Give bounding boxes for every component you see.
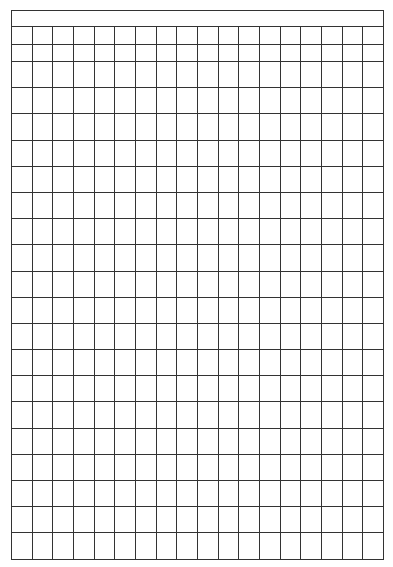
grid-cell (239, 62, 260, 88)
grid-cell (94, 428, 115, 454)
grid-cell (32, 88, 53, 114)
grid-cell (197, 245, 218, 271)
grid-cell (73, 481, 94, 507)
grid-cell (197, 27, 218, 45)
grid-row (12, 88, 384, 114)
grid-cell (156, 271, 177, 297)
grid-cell (280, 402, 301, 428)
grid-cell (73, 271, 94, 297)
grid-cell (94, 271, 115, 297)
grid-row (12, 114, 384, 140)
grid-cell (197, 219, 218, 245)
grid-cell (321, 166, 342, 192)
grid-cell (32, 140, 53, 166)
grid-cell (73, 376, 94, 402)
grid-cell (135, 245, 156, 271)
grid-cell (218, 428, 239, 454)
grid-cell (156, 376, 177, 402)
grid-cell (177, 376, 198, 402)
grid-cell (197, 533, 218, 559)
grid-cell (73, 62, 94, 88)
grid-cell (321, 114, 342, 140)
grid-cell (218, 27, 239, 45)
grid-cell (156, 533, 177, 559)
grid-cell (73, 507, 94, 533)
grid-cell (115, 114, 136, 140)
grid-cell (301, 323, 322, 349)
grid-cell (12, 454, 33, 480)
grid-cell (177, 350, 198, 376)
grid-cell (53, 219, 74, 245)
grid-cell (115, 428, 136, 454)
grid-cell (115, 271, 136, 297)
grid-cell (177, 481, 198, 507)
grid-cell (73, 245, 94, 271)
grid-body (12, 11, 384, 560)
grid-cell (259, 27, 280, 45)
grid-row (12, 245, 384, 271)
grid-cell (342, 323, 363, 349)
grid-cell (135, 140, 156, 166)
grid-cell (218, 323, 239, 349)
grid-cell (218, 481, 239, 507)
grid-cell (301, 62, 322, 88)
grid-cell (32, 44, 53, 62)
grid-cell (177, 44, 198, 62)
grid-cell (321, 88, 342, 114)
grid-cell (94, 166, 115, 192)
grid-cell (259, 140, 280, 166)
grid-cell (197, 350, 218, 376)
grid-cell (177, 297, 198, 323)
grid-cell (239, 271, 260, 297)
grid-cell (94, 219, 115, 245)
grid-cell (301, 376, 322, 402)
grid-cell (12, 533, 33, 559)
grid-cell (94, 44, 115, 62)
grid-cell (301, 166, 322, 192)
grid-cell (321, 323, 342, 349)
grid-cell (12, 245, 33, 271)
grid-cell (115, 402, 136, 428)
grid-cell (177, 114, 198, 140)
grid-cell (280, 271, 301, 297)
grid-cell (321, 481, 342, 507)
grid-cell (301, 219, 322, 245)
grid-cell (321, 245, 342, 271)
grid-cell (156, 62, 177, 88)
grid-cell (280, 350, 301, 376)
grid-cell (363, 481, 384, 507)
grid-cell (32, 376, 53, 402)
grid-cell (259, 533, 280, 559)
grid-cell (259, 245, 280, 271)
grid-cell (197, 88, 218, 114)
grid-cell (12, 27, 33, 45)
grid-cell (280, 507, 301, 533)
grid-cell (32, 350, 53, 376)
grid-cell (177, 219, 198, 245)
grid-cell (156, 219, 177, 245)
grid-cell (12, 114, 33, 140)
grid-cell (239, 350, 260, 376)
grid-cell (259, 219, 280, 245)
grid-cell (197, 192, 218, 218)
grid-cell (177, 166, 198, 192)
grid-cell (342, 428, 363, 454)
grid-cell (259, 402, 280, 428)
grid-row (12, 271, 384, 297)
grid-cell (218, 166, 239, 192)
grid-cell (32, 402, 53, 428)
grid-cell (135, 219, 156, 245)
grid-cell (32, 62, 53, 88)
grid-cell (197, 44, 218, 62)
grid-cell (177, 27, 198, 45)
grid-cell (115, 245, 136, 271)
grid-row (12, 507, 384, 533)
grid-cell (135, 27, 156, 45)
grid-cell (135, 166, 156, 192)
grid-cell (53, 428, 74, 454)
grid-cell (342, 140, 363, 166)
grid-cell (301, 454, 322, 480)
grid-cell (177, 533, 198, 559)
grid-cell (239, 88, 260, 114)
grid-cell (53, 88, 74, 114)
